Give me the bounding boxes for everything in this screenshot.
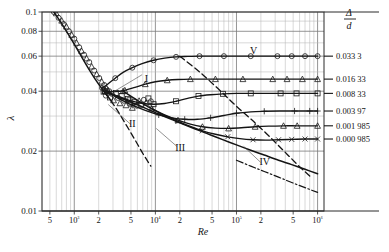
zone-label-III: III [175,142,185,153]
y-tick-label: 0.02 [21,146,37,156]
zone-label-I: I [145,73,148,84]
x-tick-label: 5 [210,215,214,225]
x-tick-label: 10⁶ [312,215,323,225]
x-tick-label: 5 [129,215,133,225]
curve-prandtl-karman [236,160,317,192]
y-axis-ticks: 0.010.020.040.060.080.1 [21,7,42,216]
x-axis-ticks: 510³2510⁴2510⁵2510⁶ [48,211,323,225]
y-axis-title: λ [4,115,16,121]
legend-label: 0.003 97 [336,106,366,116]
legend-label: 0.008 33 [336,89,366,99]
x-axis-title: Re [197,226,209,237]
x-tick-label: 10⁵ [231,215,242,225]
legend-label: 0.001 985 [336,121,370,131]
y-tick-label: 0.01 [21,206,37,216]
x-tick-label: 2 [97,215,101,225]
data-curves [51,10,320,193]
zone-label-IV: IV [259,156,270,167]
legend-title-numerator: Δ [345,7,352,18]
y-tick-label: 0.1 [26,7,37,17]
legend-label: 0.016 33 [336,74,366,84]
series-line [105,79,317,92]
y-tick-label: 0.06 [21,51,37,61]
x-tick-label: 2 [259,215,263,225]
legend-label: 0.000 985 [336,134,370,144]
marker-triangle [117,100,123,106]
legend: Δd0.033 30.016 330.008 330.003 970.001 9… [324,7,370,144]
nikuradse-diagram: 510³2510⁴2510⁵2510⁶0.010.020.040.060.080… [0,0,389,252]
x-tick-label: 5 [48,215,52,225]
zone-label-II: II [129,118,136,129]
series-line [123,91,317,128]
legend-title-denominator: d [347,20,353,31]
annotation-leader-line [156,128,177,146]
x-tick-label: 10⁴ [150,215,161,225]
marker-triangle [99,79,105,85]
zone-label-V: V [250,45,258,56]
y-tick-label: 0.04 [21,86,37,96]
y-tick-label: 0.08 [21,26,37,36]
chart-svg: 510³2510⁴2510⁵2510⁶0.010.020.040.060.080… [0,0,389,252]
x-tick-label: 5 [291,215,295,225]
annotation-leader-line [244,146,261,162]
x-tick-label: 2 [178,215,182,225]
x-tick-label: 10³ [69,215,80,225]
legend-label: 0.033 3 [336,51,362,61]
